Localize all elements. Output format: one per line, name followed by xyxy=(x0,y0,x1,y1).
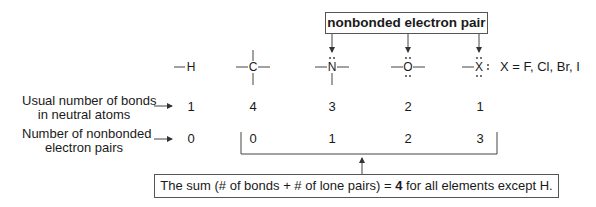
summary-suffix: for all elements except H. xyxy=(402,178,552,193)
bonds-n: 3 xyxy=(322,100,342,114)
atom-o: O xyxy=(402,61,414,73)
bonds-x: 1 xyxy=(470,100,490,114)
lone-pairs-label-line1: Number of nonbonded xyxy=(22,127,146,141)
bonds-h: 1 xyxy=(181,100,201,114)
bonds-label-line2: in neutral atoms xyxy=(22,108,146,122)
callout-label: nonbonded electron pair xyxy=(327,15,485,30)
bonds-label-line1: Usual number of bonds xyxy=(22,94,146,108)
atom-h: H xyxy=(185,61,197,73)
atom-x: X xyxy=(473,61,485,73)
lone-pairs-h: 0 xyxy=(181,132,201,146)
sum-bracket xyxy=(241,132,497,154)
lone-pairs-label-line2: electron pairs xyxy=(22,141,146,155)
lone-pairs-c: 0 xyxy=(243,132,263,146)
nonbonded-pair-callout: nonbonded electron pair xyxy=(325,12,488,34)
bonds-c: 4 xyxy=(243,100,263,114)
lone-pairs-row-label: Number of nonbonded electron pairs xyxy=(22,127,146,155)
lone-pairs-x: 3 xyxy=(470,132,490,146)
halogen-note: X = F, Cl, Br, I xyxy=(500,60,580,74)
summary-prefix: The sum (# of bonds + # of lone pairs) = xyxy=(160,178,395,193)
lone-pairs-o: 2 xyxy=(398,132,418,146)
atom-c: C xyxy=(247,61,259,73)
bonds-row-label: Usual number of bonds in neutral atoms xyxy=(22,94,146,122)
atom-n: N xyxy=(326,61,338,73)
summary-box: The sum (# of bonds + # of lone pairs) =… xyxy=(154,174,559,198)
bonds-o: 2 xyxy=(398,100,418,114)
lone-pairs-n: 1 xyxy=(322,132,342,146)
